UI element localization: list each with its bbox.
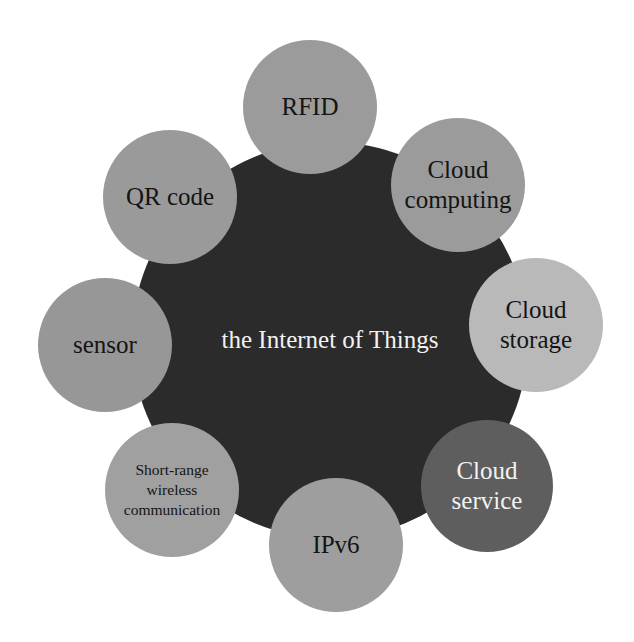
node-cloud-service: Cloud service	[421, 420, 553, 552]
node-cloud-computing: Cloud computing	[391, 118, 525, 252]
node-label-cloud-computing: Cloud computing	[405, 155, 512, 215]
node-label-short-range-wireless-communication: Short-range wireless communication	[124, 460, 220, 520]
node-cloud-storage: Cloud storage	[469, 258, 603, 392]
node-label-qr-code: QR code	[126, 182, 214, 212]
node-label-cloud-storage: Cloud storage	[500, 295, 572, 355]
node-short-range-wireless-communication: Short-range wireless communication	[105, 423, 239, 557]
node-label-cloud-service: Cloud service	[452, 456, 523, 516]
node-ipv6: IPv6	[269, 478, 403, 612]
node-label-ipv6: IPv6	[312, 530, 359, 560]
node-sensor: sensor	[38, 278, 172, 412]
node-label-rfid: RFID	[282, 92, 339, 122]
node-qr-code: QR code	[103, 130, 237, 264]
hub-label: the Internet of Things	[222, 326, 439, 354]
node-rfid: RFID	[243, 40, 377, 174]
node-label-sensor: sensor	[73, 330, 137, 360]
iot-diagram: the Internet of Things RFID Cloud comput…	[0, 0, 634, 642]
